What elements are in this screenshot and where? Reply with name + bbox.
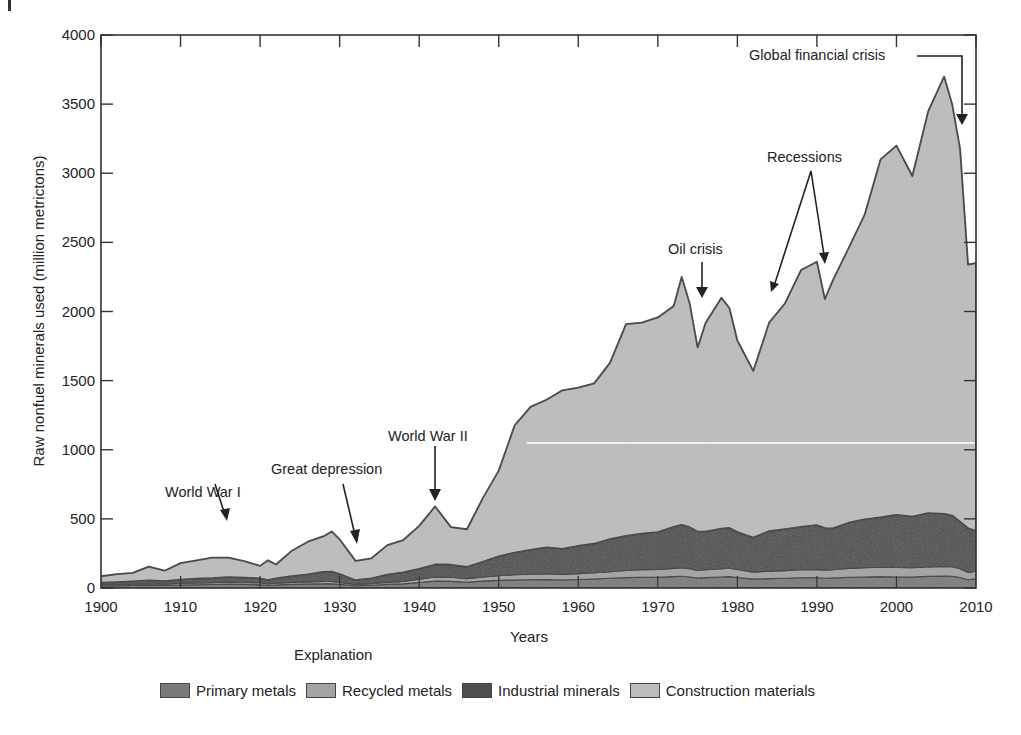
y-tick-label: 3000	[62, 164, 95, 181]
x-tick-label: 1910	[164, 598, 197, 615]
x-tick-label: 2010	[959, 598, 992, 615]
y-tick-label: 0	[87, 579, 95, 596]
legend-title: Explanation	[294, 646, 372, 663]
depression-arrowhead-icon	[350, 529, 360, 544]
legend-label: Industrial minerals	[498, 682, 620, 699]
gfc-arrowhead-icon	[956, 114, 968, 125]
area-layers	[101, 76, 976, 588]
y-tick-label: 1500	[62, 372, 95, 389]
y-tick-label: 1000	[62, 441, 95, 458]
legend-item-industrial-minerals: Industrial minerals	[462, 682, 620, 699]
y-axis-title: Raw nonfuel minerals used (million metri…	[30, 156, 47, 467]
y-tick-label: 3500	[62, 95, 95, 112]
y-tick-labels: 05001000150020002500300035004000	[62, 26, 95, 596]
x-tick-label: 1970	[641, 598, 674, 615]
legend-label: Primary metals	[196, 682, 296, 699]
annotation-oil-crisis: Oil crisis	[668, 241, 723, 257]
x-tick-label: 1960	[562, 598, 595, 615]
x-tick-label: 1900	[84, 598, 117, 615]
y-tick-label: 4000	[62, 26, 95, 43]
legend-item-primary-metals: Primary metals	[160, 682, 296, 699]
x-tick-label: 2000	[880, 598, 913, 615]
stacked-area-chart: 05001000150020002500300035004000 1900191…	[0, 0, 1021, 735]
x-tick-label: 1920	[243, 598, 276, 615]
x-tick-labels: 1900191019201930194019501960197019801990…	[84, 598, 992, 615]
legend: Primary metals Recycled metals Industria…	[160, 682, 825, 699]
legend-item-construction-materials: Construction materials	[630, 682, 815, 699]
x-tick-label: 1940	[402, 598, 435, 615]
x-tick-label: 1930	[323, 598, 356, 615]
x-tick-label: 1980	[721, 598, 754, 615]
x-tick-label: 1990	[800, 598, 833, 615]
recessions-left-arrowhead-icon	[770, 281, 779, 292]
annotation-great-depression: Great depression	[271, 461, 382, 477]
industrial-minerals-swatch-icon	[462, 683, 492, 698]
depression-arrow-line	[343, 484, 355, 535]
oil-arrowhead-icon	[696, 287, 708, 298]
ww2-arrowhead-icon	[429, 489, 441, 501]
annotation-recessions: Recessions	[767, 149, 842, 165]
recycled-metals-swatch-icon	[306, 683, 336, 698]
area-construction-materials	[101, 76, 976, 582]
primary-metals-swatch-icon	[160, 683, 190, 698]
construction-materials-swatch-icon	[630, 683, 660, 698]
ww1-arrowhead-icon	[220, 508, 230, 521]
annotation-global-financial-crisis: Global financial crisis	[749, 47, 885, 63]
x-tick-label: 1950	[482, 598, 515, 615]
y-tick-label: 500	[70, 510, 95, 527]
legend-label: Construction materials	[666, 682, 815, 699]
legend-label: Recycled metals	[342, 682, 452, 699]
annotation-world-war-1: World War I	[165, 484, 241, 500]
legend-item-recycled-metals: Recycled metals	[306, 682, 452, 699]
annotation-world-war-2: World War II	[388, 428, 468, 444]
y-tick-label: 2500	[62, 233, 95, 250]
y-tick-label: 2000	[62, 303, 95, 320]
x-axis-title: Years	[510, 628, 548, 645]
recessions-right-arrowhead-icon	[819, 252, 829, 264]
